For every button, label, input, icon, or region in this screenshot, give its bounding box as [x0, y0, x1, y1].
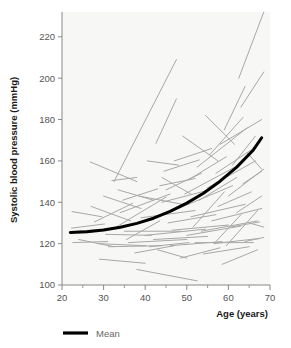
y-tick-label: 120 [39, 238, 55, 249]
y-tick-label: 140 [39, 197, 55, 208]
x-tick-label: 50 [182, 292, 193, 303]
y-tick-label: 160 [39, 155, 55, 166]
chart-figure: 100120140160180200220203040506070 Systol… [0, 0, 291, 348]
x-tick-label: 30 [98, 292, 109, 303]
x-tick-label: 70 [265, 292, 276, 303]
y-tick-label: 220 [39, 31, 55, 42]
y-tick-label: 200 [39, 73, 55, 84]
x-axis-title: Age (years) [216, 308, 268, 319]
plot-area-background [62, 12, 270, 285]
systolic-bp-vs-age-chart: 100120140160180200220203040506070 Systol… [0, 0, 291, 348]
y-axis-title: Systolic blood pressure (mmHg) [8, 77, 19, 223]
x-tick-label: 60 [223, 292, 234, 303]
x-tick-label: 40 [140, 292, 151, 303]
y-tick-label: 100 [39, 279, 55, 290]
legend-label-mean: Mean [96, 328, 120, 339]
x-tick-label: 20 [57, 292, 68, 303]
y-tick-label: 180 [39, 114, 55, 125]
